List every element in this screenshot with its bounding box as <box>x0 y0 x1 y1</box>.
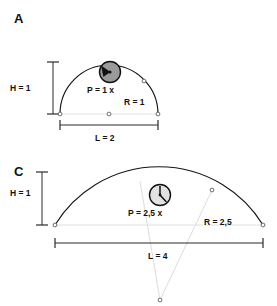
panel-a-height-dimension: H = 1 <box>10 62 59 114</box>
panel-c-arc-marker <box>210 188 214 192</box>
panel-c-radius-construction-right <box>160 190 212 300</box>
panel-a-span-label: L = 2 <box>95 133 115 143</box>
panel-c-letter: C <box>14 164 24 179</box>
panel-c-center-point <box>158 298 162 302</box>
panel-c-springing-right <box>261 223 265 227</box>
arch-comparison-figure: A H = 1 L = 2 P = 1 x <box>0 0 277 306</box>
panel-a-springing-left <box>58 112 62 116</box>
panel-c-height-label: H = 1 <box>10 188 31 198</box>
panel-a-letter: A <box>14 11 24 26</box>
panel-a-height-label: H = 1 <box>10 83 31 93</box>
panel-a-radius-label: R = 1 <box>124 97 145 107</box>
panel-c-height-dimension: H = 1 <box>10 172 48 225</box>
panel-a-span-dimension: L = 2 <box>60 120 158 143</box>
panel-a-center-point <box>107 112 111 116</box>
panel-c-pressure-label: P = 2,5 x <box>128 208 162 218</box>
panel-c-span-dimension: L = 4 <box>55 238 263 261</box>
panel-a-arc-marker <box>142 79 146 83</box>
panel-c-springing-left <box>53 223 57 227</box>
panel-c-span-label: L = 4 <box>148 251 168 261</box>
panel-c-pressure-gauge-icon <box>150 185 171 206</box>
panel-c-radius-label: R = 2,5 <box>204 217 232 227</box>
panel-a-pressure-label: P = 1 x <box>87 85 114 95</box>
panel-a: A H = 1 L = 2 P = 1 x <box>10 11 160 143</box>
panel-a-pressure-gauge-icon <box>100 62 121 83</box>
panel-a-springing-right <box>156 112 160 116</box>
panel-c: C H = 1 L = 4 <box>10 164 266 302</box>
